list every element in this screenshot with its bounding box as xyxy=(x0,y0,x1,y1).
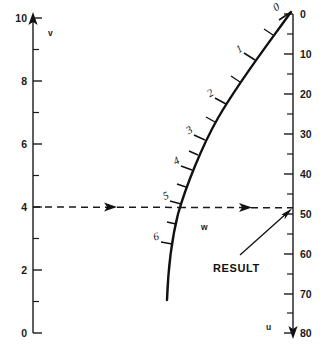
curve-w-label-0: 0 xyxy=(270,0,281,13)
axis-u-label-70: 70 xyxy=(300,288,312,300)
tick-w-2 xyxy=(215,98,226,104)
axis-u-label-80: 80 xyxy=(300,327,312,339)
tick-w-4-5 xyxy=(177,184,186,187)
axis-u-label-30: 30 xyxy=(300,128,312,140)
axis-v: 10 8 6 4 2 0 v xyxy=(15,12,53,339)
curve-w-label-4: 4 xyxy=(171,154,182,167)
result-callout: RESULT xyxy=(213,209,292,275)
index-line xyxy=(33,203,293,212)
tick-w-5 xyxy=(170,201,181,204)
tick-w-6 xyxy=(161,242,172,244)
tick-w-2-5 xyxy=(206,117,215,122)
tick-w-1 xyxy=(244,53,255,60)
axis-v-label-2: 2 xyxy=(21,264,27,276)
tick-w-3-5 xyxy=(189,151,198,155)
curve-w-label-2: 2 xyxy=(204,86,215,99)
axis-u-label-60: 60 xyxy=(300,248,312,260)
axis-u-label-40: 40 xyxy=(300,168,312,180)
curve-w-label-6: 6 xyxy=(151,229,160,242)
axis-u-label-50: 50 xyxy=(300,208,312,220)
axis-v-label-0: 0 xyxy=(21,327,27,339)
curve-w-label-1: 1 xyxy=(233,42,244,55)
axis-w-curve-line xyxy=(167,12,291,300)
axis-u: 0 10 20 30 40 50 60 70 80 u xyxy=(266,8,312,339)
axis-u-label-20: 20 xyxy=(300,88,312,100)
curve-w-label-3: 3 xyxy=(183,123,195,137)
tick-w-3 xyxy=(194,135,205,140)
tick-w-4 xyxy=(181,166,192,170)
axis-v-label-4: 4 xyxy=(21,201,27,213)
axis-u-label-0: 0 xyxy=(300,8,306,20)
tick-w-0-5 xyxy=(264,29,273,35)
nomogram-figure: 10 8 6 4 2 0 v xyxy=(0,0,328,346)
tick-w-1-5 xyxy=(231,76,240,82)
curve-w-label-5: 5 xyxy=(161,189,171,202)
axis-u-label-10: 10 xyxy=(300,48,312,60)
axis-v-label-10: 10 xyxy=(15,12,27,24)
tick-w-5-5 xyxy=(167,222,176,224)
axis-v-label-6: 6 xyxy=(21,138,27,150)
axis-w-variable-label: w xyxy=(200,222,208,232)
nomogram-canvas: 10 8 6 4 2 0 v xyxy=(0,0,328,346)
result-leader-line xyxy=(240,213,287,255)
axis-u-variable-label: u xyxy=(266,322,271,332)
result-label: RESULT xyxy=(213,262,260,274)
axis-v-label-8: 8 xyxy=(21,75,27,87)
axis-w-curve: 0 1 2 3 4 5 6 w xyxy=(151,0,291,300)
axis-v-variable-label: v xyxy=(48,28,53,38)
